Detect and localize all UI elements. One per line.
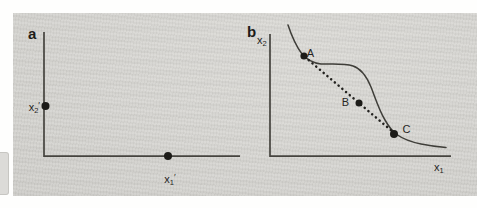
panel-b-curve [288, 25, 446, 148]
panel-a-point-x1-prime [164, 152, 172, 160]
panel-b-letter: b [247, 24, 256, 40]
panel-a-point-x2-prime [42, 102, 50, 110]
panel-b-label-b: B [339, 96, 352, 109]
panel-b-point-b [356, 100, 363, 107]
two-panel-plot-graphics [0, 0, 477, 208]
panel-b-x-axis-label: x1 [434, 161, 444, 177]
figure-screenshot: a x2′ x1′ b x2 x1 A B C [0, 0, 477, 208]
panel-a-y-point-label: x2′ [14, 99, 40, 117]
panel-b-axes [270, 34, 451, 156]
panel-a-x-point-label: x1′ [156, 171, 184, 189]
panel-b-y-axis-label: x2 [257, 34, 267, 50]
panel-b-dotted-chord [305, 57, 393, 132]
panel-b-label-a: A [304, 47, 317, 60]
panel-a-axes [44, 32, 240, 156]
panel-a-letter: a [28, 26, 36, 42]
panel-b-point-c [390, 130, 398, 138]
panel-b-label-c: C [400, 123, 413, 136]
